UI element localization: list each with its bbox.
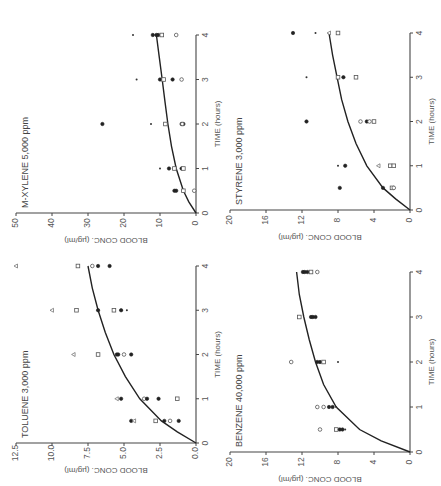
data-point-open	[316, 270, 320, 274]
data-point-filled	[305, 120, 308, 123]
data-point-square	[392, 164, 396, 168]
figure: 0123401020304050TIME (hours)BLOOD CONC. …	[0, 0, 441, 486]
data-point-star	[136, 79, 138, 81]
fit-curve	[156, 35, 196, 213]
conc-axis-label: BLOOD CONC. (µg/ml)	[278, 233, 362, 242]
conc-tick-label: 0.0	[190, 447, 200, 459]
data-point-square	[298, 315, 302, 319]
conc-tick-label: 20	[224, 457, 234, 467]
data-point-filled	[157, 397, 160, 400]
data-point-filled	[117, 353, 120, 356]
panel-styrene: 01234048121620TIME (hours)BLOOD CONC. (µ…	[224, 30, 436, 242]
data-point-filled	[96, 309, 99, 312]
data-point-filled	[177, 419, 180, 422]
conc-tick-label: 50	[10, 218, 20, 228]
data-point-filled	[119, 397, 122, 400]
time-tick-label: 4	[414, 269, 424, 274]
data-point-star	[335, 406, 337, 408]
data-point-open	[392, 186, 396, 190]
conc-tick-label: 20	[118, 218, 128, 228]
data-point-square	[112, 308, 116, 312]
time-tick-label: 2	[414, 119, 424, 124]
data-point-triangle	[377, 164, 381, 168]
data-point-filled	[331, 405, 334, 408]
time-tick-label: 4	[200, 32, 210, 37]
data-point-square	[164, 122, 168, 126]
data-point-open	[289, 360, 293, 364]
time-tick-label: 3	[200, 77, 210, 82]
conc-tick-label: 4	[368, 217, 378, 222]
data-point-square	[182, 189, 186, 193]
data-point-open	[91, 264, 95, 268]
time-axis-label: TIME (hours)	[213, 100, 222, 147]
data-point-square	[154, 419, 158, 423]
data-point-filled	[108, 264, 111, 267]
data-point-star	[159, 168, 161, 170]
data-point-filled	[381, 186, 384, 189]
data-point-triangle	[115, 397, 119, 401]
conc-axis-label: BLOOD CONC. (µg/ml)	[64, 466, 148, 475]
data-point-open	[368, 120, 372, 124]
data-point-filled	[130, 353, 133, 356]
time-tick-label: 1	[200, 396, 210, 401]
time-tick-label: 0	[200, 210, 210, 215]
time-tick-label: 1	[414, 404, 424, 409]
data-point-square	[175, 397, 179, 401]
data-point-square	[372, 120, 376, 124]
data-point-open	[180, 78, 184, 82]
data-point-square	[334, 428, 338, 432]
time-tick-label: 3	[414, 75, 424, 80]
data-point-square	[75, 308, 79, 312]
data-point-filled	[291, 31, 294, 34]
time-axis-label: TIME (hours)	[427, 338, 436, 385]
data-point-star	[306, 76, 308, 78]
conc-tick-label: 0	[404, 459, 414, 464]
data-point-filled	[344, 164, 347, 167]
data-point-open	[168, 419, 172, 423]
data-point-open	[318, 428, 322, 432]
data-point-filled	[119, 309, 122, 312]
time-tick-label: 2	[200, 352, 210, 357]
time-tick-label: 3	[414, 314, 424, 319]
panel-toluene: 012340.02.55.07.510.012.5TIME (hours)BLO…	[10, 263, 222, 475]
data-point-star	[344, 429, 346, 431]
panel-title: BENZENE 40,000 ppm	[234, 354, 244, 447]
time-tick-label: 0	[414, 207, 424, 212]
data-point-filled	[167, 167, 170, 170]
time-axis-label: TIME (hours)	[427, 98, 436, 145]
time-axis-label: TIME (hours)	[213, 331, 222, 378]
data-point-filled	[96, 264, 99, 267]
data-point-open	[122, 353, 126, 357]
time-tick-label: 2	[414, 359, 424, 364]
data-point-square	[322, 360, 326, 364]
time-tick-label: 1	[200, 166, 210, 171]
data-point-star	[126, 309, 128, 311]
data-point-star	[337, 361, 339, 363]
conc-tick-label: 16	[260, 457, 270, 467]
conc-tick-label: 10	[154, 218, 164, 228]
panel-title: M-XYLENE 5,000 ppm	[20, 117, 30, 208]
data-point-filled	[341, 428, 344, 431]
conc-tick-label: 0	[190, 220, 200, 225]
time-tick-label: 4	[200, 263, 210, 268]
data-point-square	[354, 75, 358, 79]
data-point-open	[359, 120, 363, 124]
data-point-filled	[101, 122, 104, 125]
data-point-square	[96, 353, 100, 357]
data-point-triangle	[14, 264, 18, 268]
conc-axis-label: BLOOD CONC. (µg/ml)	[278, 475, 362, 484]
fit-curve	[297, 272, 410, 452]
data-point-open	[174, 33, 178, 37]
data-point-filled	[145, 397, 148, 400]
data-point-filled	[175, 189, 178, 192]
conc-axis-label: BLOOD CONC. (µg/ml)	[64, 236, 148, 245]
data-point-filled	[151, 33, 154, 36]
conc-tick-label: 7.5	[82, 447, 92, 459]
data-point-square	[336, 75, 340, 79]
data-point-filled	[157, 33, 160, 36]
data-point-star	[315, 32, 317, 34]
conc-tick-label: 10.0	[46, 444, 56, 461]
data-point-triangle	[50, 308, 54, 312]
conc-tick-label: 40	[46, 218, 56, 228]
conc-tick-label: 30	[82, 218, 92, 228]
